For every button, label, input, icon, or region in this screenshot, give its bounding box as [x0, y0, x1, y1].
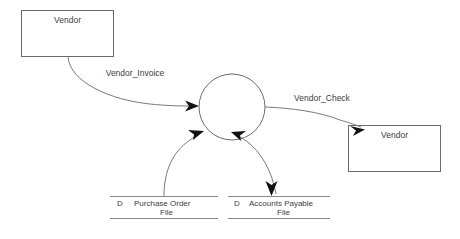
data-flow-label-vendor-check: Vendor_Check	[294, 93, 351, 103]
data-flow-label-vendor-invoice: Vendor_Invoice	[106, 68, 165, 78]
store-label-line1-accounts-payable-file: Accounts Payable	[249, 199, 314, 208]
external-entity-vendor-sink[interactable]: Vendor	[349, 126, 441, 172]
store-tag-purchase-order-file: D	[117, 199, 123, 208]
data-flow-vendor-invoice[interactable]: Vendor_Invoice	[68, 57, 199, 112]
vendor-invoice-path	[68, 57, 196, 106]
process-circle-shape	[199, 74, 265, 140]
purchase-order-path	[164, 133, 200, 196]
process-node[interactable]	[199, 74, 265, 140]
external-entity-vendor-source[interactable]: Vendor	[22, 11, 114, 57]
entity-label-vendor-sink: Vendor	[381, 130, 408, 140]
store-label-line2-purchase-order-file: File	[160, 208, 173, 217]
store-label-line2-accounts-payable-file: File	[277, 208, 290, 217]
vendor-check-path	[265, 107, 361, 127]
store-tag-accounts-payable-file: D	[234, 199, 240, 208]
store-label-line1-purchase-order-file: Purchase Order	[134, 199, 191, 208]
purchase-order-arrowhead	[188, 130, 204, 140]
data-store-accounts-payable-file[interactable]: D Accounts Payable File	[228, 197, 330, 219]
data-flow-purchase-order[interactable]	[164, 130, 204, 196]
data-store-purchase-order-file[interactable]: D Purchase Order File	[110, 197, 218, 219]
entity-label-vendor-source: Vendor	[54, 15, 81, 25]
data-flow-diagram-canvas: Vendor Vendor D Purchase Order File D Ac…	[0, 0, 460, 239]
